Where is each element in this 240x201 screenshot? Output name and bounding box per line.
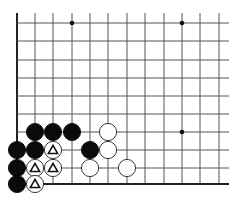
white-stone-icon <box>99 123 116 140</box>
board-grid <box>17 13 229 184</box>
black-stone-icon <box>26 141 43 158</box>
star-point-icon <box>70 21 75 26</box>
black-stone-icon <box>8 175 25 192</box>
black-stone-icon <box>8 159 25 176</box>
go-board <box>0 0 240 201</box>
black-stone-icon <box>81 141 98 158</box>
black-stone-icon <box>63 123 80 140</box>
white-stone-icon <box>118 159 135 176</box>
star-point-icon <box>180 21 185 26</box>
black-stone-icon <box>44 123 61 140</box>
white-stone-icon <box>99 141 116 158</box>
white-stone-icon <box>81 159 98 176</box>
black-stone-icon <box>26 123 43 140</box>
star-point-icon <box>180 130 185 135</box>
black-stone-icon <box>8 141 25 158</box>
